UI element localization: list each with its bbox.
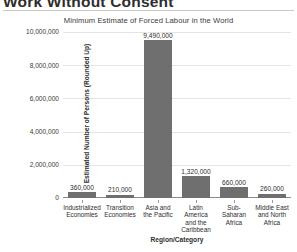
bar[interactable] — [106, 195, 134, 198]
category-label-line: Asia and — [139, 204, 177, 211]
x-axis-category-label: Sub-SaharanAfrica — [215, 204, 253, 226]
category-label-line: and the — [177, 219, 215, 226]
plot-area: 02,000,0004,000,0006,000,0008,000,00010,… — [63, 32, 291, 198]
chart-title: Minimum Estimate of Forced Labour in the… — [0, 16, 297, 25]
bar-slot: 660,000 — [215, 32, 253, 198]
y-axis-title: Estimated Number of Persons (Rounded Up) — [83, 39, 90, 189]
category-label-line: America — [177, 211, 215, 218]
bar[interactable] — [144, 40, 172, 198]
bar[interactable] — [68, 192, 96, 198]
y-axis-tick-label: 4,000,000 — [3, 128, 59, 135]
bar-value-label: 260,000 — [260, 185, 284, 192]
x-axis-tick — [120, 200, 121, 203]
x-axis-tick — [158, 200, 159, 203]
x-axis-category-label: LatinAmericaand theCaribbean — [177, 204, 215, 234]
x-axis-title: Region/Category — [63, 236, 291, 243]
bar[interactable] — [258, 194, 286, 198]
bar-value-label: 660,000 — [222, 179, 246, 186]
category-label-line: Africa — [253, 219, 291, 226]
bar-slot: 9,490,000 — [139, 32, 177, 198]
title-divider — [3, 10, 294, 11]
category-label-line: Caribbean — [177, 226, 215, 233]
bar[interactable] — [220, 187, 248, 198]
category-label-line: Economies — [101, 211, 139, 218]
category-label-line: Saharan — [215, 211, 253, 218]
x-axis-category-label: TransitionEconomies — [101, 204, 139, 219]
bar-slot: 210,000 — [101, 32, 139, 198]
x-axis-tick — [196, 200, 197, 203]
x-axis-tick — [234, 200, 235, 203]
y-axis-tick-label: 2,000,000 — [3, 161, 59, 168]
chart-page: Work Without Consent Minimum Estimate of… — [0, 0, 297, 252]
x-axis-category-label: IndustrializedEconomies — [63, 204, 101, 219]
category-label-line: Africa — [215, 219, 253, 226]
category-label-line: Economies — [63, 211, 101, 218]
x-axis-category-label: Asia andthe Pacific — [139, 204, 177, 219]
x-axis-tick — [272, 200, 273, 203]
bar-series: 360,000210,0009,490,0001,320,000660,0002… — [63, 32, 291, 198]
bar-slot: 1,320,000 — [177, 32, 215, 198]
category-label-line: and North — [253, 211, 291, 218]
category-label-line: Latin — [177, 204, 215, 211]
category-label-line: Transition — [101, 204, 139, 211]
y-axis-tick-label: 0 — [3, 194, 59, 201]
category-label-line: Middle East — [253, 204, 291, 211]
bar-slot: 260,000 — [253, 32, 291, 198]
bar-value-label: 210,000 — [108, 186, 132, 193]
bar-value-label: 9,490,000 — [143, 32, 172, 39]
bar-value-label: 1,320,000 — [181, 168, 210, 175]
x-axis-tick — [82, 200, 83, 203]
y-axis-tick-label: 10,000,000 — [3, 28, 59, 35]
y-axis-tick-label: 8,000,000 — [3, 62, 59, 69]
category-label-line: the Pacific — [139, 211, 177, 218]
x-axis-category-label: Middle Eastand NorthAfrica — [253, 204, 291, 226]
y-axis-tick-label: 6,000,000 — [3, 95, 59, 102]
bar[interactable] — [182, 176, 210, 198]
category-label-line: Sub- — [215, 204, 253, 211]
x-axis-category-labels: IndustrializedEconomiesTransitionEconomi… — [63, 200, 291, 240]
category-label-line: Industrialized — [63, 204, 101, 211]
